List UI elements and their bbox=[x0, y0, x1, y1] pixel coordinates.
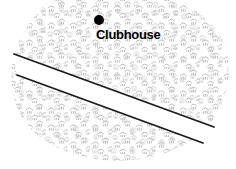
clubhouse-marker-label: Clubhouse bbox=[96, 27, 161, 42]
map-figure: Clubhouse bbox=[0, 0, 236, 169]
map-canvas: Clubhouse bbox=[0, 0, 236, 169]
clubhouse-marker-dot bbox=[94, 15, 104, 25]
